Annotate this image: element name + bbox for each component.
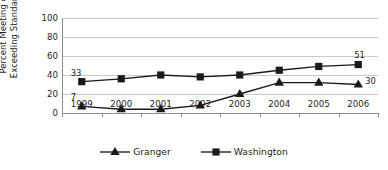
x-tick-mark-3 — [181, 113, 182, 117]
chart-legend: GrangerWashington — [0, 146, 388, 158]
y-axis-title-line-2: Exceeding Standards — [9, 0, 20, 78]
y-tick-label-60: 60 — [32, 52, 58, 61]
legend-label-washington: Washington — [234, 147, 288, 156]
marker-washington-2003 — [236, 71, 243, 78]
x-tick-mark-6 — [299, 113, 300, 117]
x-tick-label-2001: 2001 — [141, 100, 181, 109]
y-axis-title-line-1: Percent Meeting or — [0, 0, 9, 74]
legend-glyph-triangle-icon — [110, 147, 119, 155]
marker-washington-2000 — [118, 75, 125, 82]
marker-granger-2006 — [354, 79, 363, 87]
x-tick-mark-5 — [260, 113, 261, 117]
legend-item-granger[interactable]: Granger — [100, 146, 171, 158]
point-label-washington-2006: 51 — [354, 51, 365, 59]
line-chart: Percent Meeting or Exceeding Standards 1… — [0, 0, 388, 170]
x-tick-label-2006: 2006 — [338, 100, 378, 109]
legend-marker-square-icon — [201, 146, 231, 158]
legend-label-granger: Granger — [133, 147, 171, 156]
x-tick-label-1999: 1999 — [62, 100, 102, 109]
x-tick-label-2005: 2005 — [299, 100, 339, 109]
x-tick-label-2003: 2003 — [220, 100, 260, 109]
marker-granger-2004 — [275, 78, 284, 86]
point-label-granger-2006: 30 — [365, 77, 376, 85]
x-tick-label-2002: 2002 — [180, 100, 220, 109]
x-tick-mark-1 — [102, 113, 103, 117]
y-tick-label-100: 100 — [32, 14, 58, 23]
point-label-washington-1999: 33 — [71, 69, 82, 77]
marker-washington-2001 — [157, 71, 164, 78]
y-tick-label-0: 0 — [32, 109, 58, 118]
y-tick-label-20: 20 — [32, 90, 58, 99]
marker-washington-1999 — [78, 78, 85, 85]
y-axis-title: Percent Meeting or Exceeding Standards — [0, 0, 23, 82]
x-tick-mark-2 — [141, 113, 142, 117]
legend-item-washington[interactable]: Washington — [201, 146, 288, 158]
legend-marker-triangle-icon — [100, 146, 130, 158]
x-tick-label-2004: 2004 — [259, 100, 299, 109]
marker-washington-2005 — [315, 63, 322, 70]
marker-washington-2002 — [197, 73, 204, 80]
y-tick-label-80: 80 — [32, 33, 58, 42]
marker-washington-2006 — [355, 61, 362, 68]
y-tick-label-40: 40 — [32, 71, 58, 80]
x-tick-mark-8 — [378, 113, 379, 117]
x-tick-mark-4 — [220, 113, 221, 117]
marker-granger-2005 — [314, 78, 323, 86]
x-tick-mark-0 — [62, 113, 63, 117]
marker-washington-2004 — [276, 67, 283, 74]
x-tick-mark-7 — [339, 113, 340, 117]
legend-glyph-square-icon — [212, 148, 219, 155]
x-tick-label-2000: 2000 — [101, 100, 141, 109]
